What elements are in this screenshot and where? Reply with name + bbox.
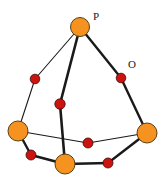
atom-o-lower-left bbox=[26, 150, 36, 160]
phosphorus-label: P bbox=[93, 10, 99, 22]
atom-p-right bbox=[137, 123, 157, 143]
atom-o-middle bbox=[83, 138, 93, 148]
atom-p-top bbox=[71, 18, 90, 37]
oxygen-label: O bbox=[128, 58, 136, 70]
atom-o-center bbox=[55, 99, 65, 109]
atom-p-left bbox=[8, 121, 28, 141]
label-layer: P O bbox=[93, 10, 136, 70]
molecule-diagram: P O bbox=[0, 0, 163, 181]
bond-P-left-O-middle bbox=[18, 131, 88, 143]
bond-layer bbox=[18, 27, 147, 164]
atom-p-bottom bbox=[55, 154, 75, 174]
atom-layer bbox=[8, 18, 157, 175]
atom-o-upper-right bbox=[116, 73, 126, 83]
molecule-figure: P O bbox=[0, 0, 163, 181]
atom-o-lower-right bbox=[103, 158, 113, 168]
atom-o-upper-left bbox=[30, 74, 40, 84]
